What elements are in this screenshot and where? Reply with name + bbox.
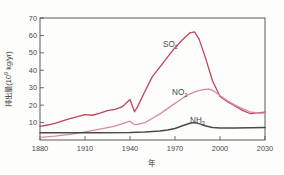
series-label-so2-base: SO bbox=[163, 40, 175, 49]
x-axis-title: 年 bbox=[148, 158, 156, 168]
x-tick-label: 1970 bbox=[167, 144, 183, 153]
svg-text:排出量(109 kg/yr): 排出量(109 kg/yr) bbox=[3, 51, 13, 106]
series-label-nh3-subscript: 3 bbox=[202, 120, 205, 126]
x-tick-label: 1910 bbox=[77, 144, 93, 153]
x-tick-label: 2030 bbox=[257, 144, 273, 153]
x-tick-label: 1940 bbox=[122, 144, 138, 153]
series-label-nh3-base: NH bbox=[190, 116, 202, 125]
x-tick-label: 1880 bbox=[32, 144, 48, 153]
y-tick-label: 40 bbox=[29, 66, 37, 75]
emissions-line-chart: 10203040506070 188019101940197020002030 … bbox=[0, 0, 284, 175]
y-tick-label: 20 bbox=[29, 101, 37, 110]
chart-figure: 10203040506070 188019101940197020002030 … bbox=[0, 0, 284, 175]
y-axis-title-main: 排出量 bbox=[4, 85, 13, 107]
x-tick-label: 2000 bbox=[212, 144, 228, 153]
series-label-so2-subscript: 2 bbox=[175, 44, 178, 50]
y-axis-title: 排出量(109 kg/yr) bbox=[3, 51, 13, 106]
y-tick-label: 70 bbox=[29, 14, 37, 23]
series-label-no2-base: NO bbox=[172, 88, 184, 97]
y-axis-title-unit-close: kg/yr) bbox=[4, 51, 13, 72]
series-label-no2-subscript: 2 bbox=[184, 92, 187, 98]
y-tick-label: 30 bbox=[29, 83, 37, 92]
y-axis-title-unit-open: (10 bbox=[4, 75, 13, 86]
y-tick-label: 10 bbox=[29, 118, 37, 127]
y-tick-label: 50 bbox=[29, 48, 37, 57]
y-tick-label: 60 bbox=[29, 31, 37, 40]
